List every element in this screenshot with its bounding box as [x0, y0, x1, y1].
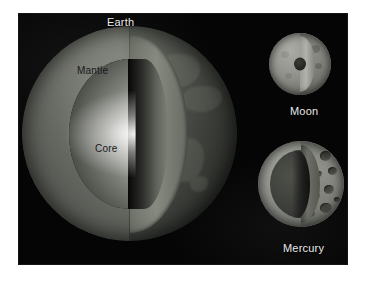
- moon-sphere: [269, 33, 331, 95]
- label-core: Core: [95, 143, 117, 154]
- mercury-sphere: [258, 141, 344, 227]
- space-background-panel: Earth Mantle Core Moon Mercury: [19, 14, 347, 264]
- illustration-figure: Earth Mantle Core Moon Mercury: [0, 0, 366, 282]
- label-mantle: Mantle: [77, 65, 108, 76]
- earth-diagram: [22, 26, 237, 241]
- label-earth: Earth: [107, 16, 134, 28]
- label-moon: Moon: [290, 105, 318, 117]
- earth-sphere: [22, 26, 237, 241]
- mercury-limb-shading: [258, 141, 344, 227]
- mercury-diagram: [258, 141, 344, 227]
- label-mercury: Mercury: [283, 242, 324, 254]
- moon-diagram: [269, 33, 331, 95]
- moon-limb-shading: [269, 33, 331, 95]
